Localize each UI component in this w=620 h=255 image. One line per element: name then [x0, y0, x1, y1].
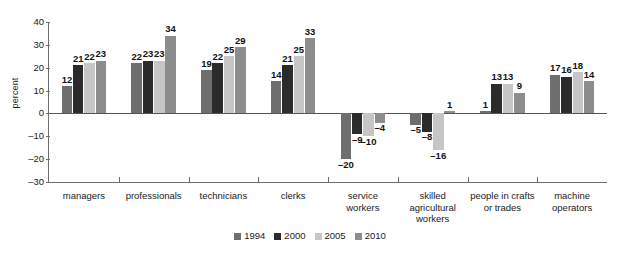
- bar: [561, 77, 572, 114]
- bar: [235, 47, 246, 113]
- bar-group: 12212223: [49, 22, 119, 182]
- bar-group: –5–8–161: [398, 22, 468, 182]
- bar: [294, 56, 305, 113]
- bar-group: 17161814: [537, 22, 607, 182]
- legend-item: 2005: [315, 231, 346, 241]
- bar-group: 113139: [468, 22, 538, 182]
- bar: [480, 111, 491, 113]
- legend-label: 2000: [284, 231, 305, 241]
- bar: [584, 81, 595, 113]
- y-tick-label: –10: [18, 131, 44, 141]
- y-tick-label: –20: [18, 154, 44, 164]
- legend-label: 2010: [365, 231, 386, 241]
- bar-value-label: –10: [358, 137, 380, 147]
- bar-group: 22232334: [119, 22, 189, 182]
- bar: [282, 65, 293, 113]
- legend-item: 2000: [274, 231, 305, 241]
- axis-baseline: [49, 182, 607, 183]
- y-tick-label: 30: [18, 40, 44, 50]
- bar-value-label: 34: [160, 24, 182, 34]
- y-tick-label: –30: [18, 177, 44, 187]
- bar: [96, 61, 107, 114]
- y-tick-label: 20: [18, 63, 44, 73]
- bar-group: 14212533: [258, 22, 328, 182]
- bar: [154, 61, 165, 114]
- bar: [444, 111, 455, 113]
- bar: [433, 113, 444, 150]
- bar: [491, 84, 502, 114]
- bar: [212, 63, 223, 113]
- bar: [224, 56, 235, 113]
- bar: [271, 81, 282, 113]
- bar: [73, 65, 84, 113]
- y-tick-label: 0: [18, 108, 44, 118]
- bar: [305, 38, 316, 113]
- bar: [84, 63, 95, 113]
- y-tick-label: 10: [18, 86, 44, 96]
- bar: [165, 36, 176, 114]
- legend-item: 2010: [355, 231, 386, 241]
- bar: [422, 113, 433, 131]
- bar-value-label: 33: [299, 27, 321, 37]
- legend-swatch-icon: [274, 233, 281, 240]
- x-axis-label: machineoperators: [531, 190, 613, 213]
- bar: [410, 113, 421, 124]
- bar-value-label: –4: [369, 123, 391, 133]
- bar: [550, 75, 561, 114]
- bar: [131, 63, 142, 113]
- legend-label: 1994: [244, 231, 265, 241]
- bar-value-label: 9: [508, 81, 530, 91]
- bar-value-label: 29: [229, 36, 251, 46]
- legend-label: 2005: [325, 231, 346, 241]
- legend-item: 1994: [234, 231, 265, 241]
- bar-value-label: 1: [439, 100, 461, 110]
- bar: [514, 93, 525, 114]
- bar-value-label: –16: [427, 151, 449, 161]
- y-tick-label: 40: [18, 17, 44, 27]
- legend-swatch-icon: [355, 233, 362, 240]
- plot-area: 12212223222323341922252914212533–20–9–10…: [49, 22, 607, 182]
- bar: [143, 61, 154, 114]
- bar: [201, 70, 212, 113]
- chart-legend: 1994200020052010: [0, 231, 620, 241]
- bar-chart: percent 403020100–10–20–30 1221222322232…: [0, 0, 620, 255]
- bar-value-label: 23: [90, 49, 112, 59]
- legend-swatch-icon: [315, 233, 322, 240]
- bar: [352, 113, 363, 134]
- bar-value-label: –20: [335, 160, 357, 170]
- legend-swatch-icon: [234, 233, 241, 240]
- bar-value-label: 14: [578, 70, 600, 80]
- bar: [62, 86, 73, 113]
- bar-group: 19222529: [189, 22, 259, 182]
- bar-group: –20–9–10–4: [328, 22, 398, 182]
